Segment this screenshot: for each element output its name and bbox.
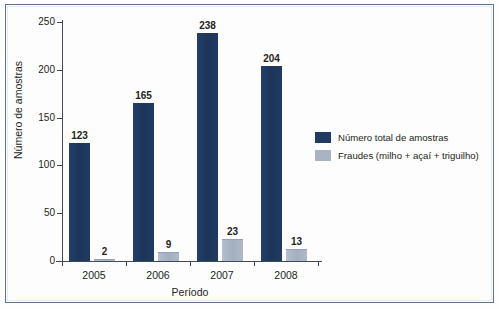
x-tick-mark: [126, 261, 127, 266]
x-axis-line: [56, 261, 322, 262]
legend-item-fraud: Fraudes (milho + açaí + triguilho): [315, 148, 479, 163]
x-axis-title: Período: [120, 286, 260, 298]
bar-value-fraud-2006: 9: [146, 239, 192, 250]
y-tick-label: 0: [8, 256, 55, 266]
y-tick-label-text: 50: [11, 208, 55, 218]
x-tick-label: 2008: [256, 269, 316, 281]
chart-legend: Número total de amostras Fraudes (milho …: [315, 130, 479, 166]
x-tick-mark: [318, 261, 319, 266]
bar-value-fraud-2005: 2: [82, 246, 128, 257]
legend-label-fraud: Fraudes (milho + açaí + triguilho): [338, 150, 479, 161]
bar-fraud-2007: [222, 239, 243, 261]
chart-figure: 050100150200250 2005200620072008 1232165…: [0, 0, 499, 309]
y-axis-title: Número de amostras: [12, 40, 24, 180]
legend-swatch-total: [315, 132, 331, 143]
bar-value-total-2008: 204: [249, 53, 295, 64]
legend-label-total: Número total de amostras: [338, 132, 448, 143]
x-tick-mark: [62, 261, 63, 266]
x-tick-label: 2006: [128, 269, 188, 281]
y-tick-label: 50: [8, 208, 55, 218]
x-tick-mark: [190, 261, 191, 266]
y-tick-label-text: 250: [11, 17, 55, 27]
bar-fraud-2005: [94, 259, 115, 261]
bar-value-fraud-2007: 23: [210, 226, 256, 237]
bar-fraud-2008: [286, 249, 307, 261]
bar-fraud-2006: [158, 252, 179, 261]
y-tick-label: 250: [8, 17, 55, 27]
bar-total-2005: [69, 143, 90, 261]
bar-value-fraud-2008: 13: [274, 236, 320, 247]
bar-total-2008: [261, 66, 282, 261]
bar-value-total-2007: 238: [185, 20, 231, 31]
y-tick-label-text: 0: [11, 256, 55, 266]
bar-value-total-2006: 165: [121, 90, 167, 101]
x-tick-label: 2005: [64, 269, 124, 281]
legend-item-total: Número total de amostras: [315, 130, 479, 145]
bar-value-total-2005: 123: [57, 130, 103, 141]
plot-area: 123216592382320413: [62, 22, 318, 261]
bar-total-2006: [133, 103, 154, 261]
x-tick-mark: [254, 261, 255, 266]
x-tick-label: 2007: [192, 269, 252, 281]
legend-swatch-fraud: [315, 150, 331, 161]
